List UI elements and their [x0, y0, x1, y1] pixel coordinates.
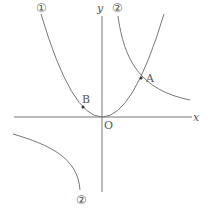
- point-b-label: B: [82, 93, 90, 106]
- point-a: [140, 77, 143, 80]
- y-axis-label: y: [96, 2, 104, 15]
- point-a-label: A: [145, 72, 155, 85]
- x-axis-label: x: [193, 111, 200, 124]
- hyperbola-lower-branch: [13, 134, 80, 190]
- curve-1-label: ①: [36, 1, 47, 15]
- origin-label: O: [104, 119, 113, 132]
- graph: ① ② ② y x O A B: [0, 0, 208, 219]
- curve-2-lower-label: ②: [76, 193, 87, 207]
- curve-2-label: ②: [112, 1, 123, 15]
- hyperbola-upper-branch: [118, 16, 190, 100]
